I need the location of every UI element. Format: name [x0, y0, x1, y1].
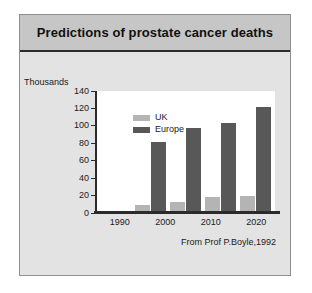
plot-area [95, 91, 275, 213]
legend-label: Europe [155, 125, 184, 134]
x-axis-tick-label: 2010 [191, 217, 231, 227]
y-axis-tick-label: 0 [84, 209, 89, 218]
bar-group [168, 91, 203, 213]
slide-frame: Predictions of prostate cancer deaths Th… [19, 14, 291, 276]
legend-swatch-uk [133, 115, 150, 121]
y-axis-tick: 80 [79, 138, 95, 148]
bar-chart: 140120100806040200 UKEurope [61, 91, 275, 213]
x-axis-tick-label: 2020 [236, 217, 276, 227]
y-axis-tick: 20 [79, 191, 95, 201]
chart-legend: UKEurope [133, 112, 184, 136]
y-axis-tick-label: 40 [79, 174, 89, 183]
y-axis-tick-label: 20 [79, 191, 89, 200]
y-axis-tick-label: 80 [79, 139, 89, 148]
y-axis: 140120100806040200 [61, 91, 95, 213]
bar-europe-1990 [151, 142, 166, 213]
bar-europe-2010 [221, 123, 236, 213]
attribution-text: From Prof P.Boyle,1992 [181, 237, 276, 247]
bars-layer [133, 91, 273, 213]
y-axis-tick: 140 [74, 86, 95, 96]
legend-item-europe: Europe [133, 124, 184, 135]
y-axis-tick-label: 140 [74, 87, 89, 96]
bar-group [203, 91, 238, 213]
bar-group [133, 91, 168, 213]
y-axis-tick: 60 [79, 156, 95, 166]
page-title: Predictions of prostate cancer deaths [37, 25, 273, 40]
y-axis-tick: 40 [79, 173, 95, 183]
x-axis-tick-label: 2000 [145, 217, 185, 227]
y-axis-unit-label: Thousands [24, 77, 69, 87]
y-axis-tick: 100 [74, 121, 95, 131]
y-axis-tick: 120 [74, 103, 95, 113]
slide-title-bar: Predictions of prostate cancer deaths [20, 15, 290, 52]
y-axis-tick-label: 60 [79, 156, 89, 165]
y-axis-tick-label: 100 [74, 121, 89, 130]
bar-group [238, 91, 273, 213]
legend-swatch-europe [133, 127, 150, 133]
bar-europe-2000 [186, 128, 201, 213]
legend-label: UK [155, 113, 168, 122]
x-axis-tick-label: 1990 [100, 217, 140, 227]
bar-europe-2020 [256, 107, 271, 213]
x-axis-baseline [94, 211, 280, 214]
x-axis-labels: 1990200020102020 [97, 217, 279, 227]
legend-item-uk: UK [133, 112, 184, 123]
y-axis-tick-label: 120 [74, 104, 89, 113]
